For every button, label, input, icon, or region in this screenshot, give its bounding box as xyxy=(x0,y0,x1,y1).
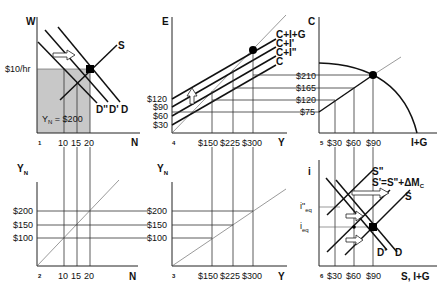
svg-text:E: E xyxy=(162,16,169,27)
svg-text:$100: $100 xyxy=(13,233,33,243)
connectors xyxy=(64,147,373,266)
supply-label: S xyxy=(118,40,125,51)
svg-text:$30: $30 xyxy=(327,138,342,148)
svg-text:$225: $225 xyxy=(220,138,240,148)
svg-text:N: N xyxy=(129,271,136,282)
svg-text:6: 6 xyxy=(320,273,324,279)
i2-label: i"eq xyxy=(300,201,312,213)
svg-text:$30: $30 xyxy=(327,271,342,281)
svg-text:$200: $200 xyxy=(13,206,33,216)
svg-text:$200: $200 xyxy=(147,206,167,216)
production-line xyxy=(37,180,119,266)
equilibrium-point xyxy=(369,71,377,79)
svg-text:15: 15 xyxy=(71,138,81,148)
y-axis-label: W xyxy=(26,16,36,27)
svg-text:$90: $90 xyxy=(366,138,381,148)
macro-diagram: W N 1 $10/hr 10 15 20 S D'' D' D YN = $2… xyxy=(0,0,447,295)
supply-s1-label: S'=S"+ΔMC xyxy=(372,177,425,189)
svg-text:i: i xyxy=(308,166,311,177)
svg-text:10: 10 xyxy=(58,271,68,281)
frontier-curve xyxy=(319,63,417,133)
consumption-line xyxy=(319,75,373,112)
svg-text:2: 2 xyxy=(38,273,42,279)
wage-label: $10/hr xyxy=(5,64,31,74)
svg-text:$150: $150 xyxy=(198,138,218,148)
svg-text:S": S" xyxy=(372,166,384,177)
equilibrium-point xyxy=(249,46,257,54)
svg-text:4: 4 xyxy=(172,140,176,146)
equilibrium-point xyxy=(86,65,94,73)
demand-label-d: D xyxy=(121,104,128,115)
svg-text:$30: $30 xyxy=(153,120,168,130)
svg-text:Y: Y xyxy=(278,271,285,282)
svg-text:C: C xyxy=(308,16,315,27)
ci2-line xyxy=(172,56,276,116)
equilibrium-point xyxy=(369,223,377,231)
demand-label-d1: D' xyxy=(109,104,119,115)
svg-text:$90: $90 xyxy=(366,271,381,281)
panel-4-keynesian-cross: E Y 4 C+I+G C+I' C+I" C $120 $90 $60 $30… xyxy=(147,15,319,148)
panel-1-labor-market: W N 1 $10/hr 10 15 20 S D'' D' D YN = $2… xyxy=(5,16,140,148)
y-axis-label: YN xyxy=(17,163,28,176)
panel-6-loanable-funds: i S, I+G 6 i"eq ieq S" S'=S"+ΔMC S D' D … xyxy=(300,160,437,282)
svg-text:$225: $225 xyxy=(220,271,240,281)
svg-text:$60: $60 xyxy=(346,271,361,281)
svg-text:$150: $150 xyxy=(198,271,218,281)
svg-text:$300: $300 xyxy=(242,138,262,148)
shift-arrow-icon xyxy=(346,235,363,245)
y-axis-label: YN xyxy=(157,163,168,176)
cig-line xyxy=(172,39,276,99)
svg-text:20: 20 xyxy=(84,271,94,281)
svg-text:5: 5 xyxy=(320,140,324,146)
demand-label-d2: D'' xyxy=(96,104,108,115)
income-line xyxy=(172,189,286,266)
svg-text:Y: Y xyxy=(278,137,285,148)
svg-text:10: 10 xyxy=(58,138,68,148)
svg-text:S: S xyxy=(405,191,412,202)
shift-arrow-icon xyxy=(352,188,389,198)
svg-text:S, I+G: S, I+G xyxy=(401,271,430,282)
supply-s xyxy=(345,190,410,255)
svg-text:3: 3 xyxy=(172,273,176,279)
panel-2-production-function: YN N 2 $200 $150 $100 10 15 20 xyxy=(13,163,148,282)
svg-text:15: 15 xyxy=(71,271,81,281)
svg-text:$100: $100 xyxy=(147,233,167,243)
panel-number: 1 xyxy=(38,140,42,146)
ci1-line xyxy=(172,47,276,107)
svg-text:$150: $150 xyxy=(147,220,167,230)
svg-text:$60: $60 xyxy=(346,138,361,148)
panel-3-income-mapping: YN Y 3 $200 $150 $100 $150 $225 $300 xyxy=(147,163,287,282)
svg-text:D': D' xyxy=(377,247,387,258)
svg-text:$300: $300 xyxy=(242,271,262,281)
svg-text:D: D xyxy=(395,247,402,258)
svg-text:C: C xyxy=(276,56,283,67)
svg-text:$150: $150 xyxy=(13,220,33,230)
x-axis-label: N xyxy=(131,137,138,148)
svg-text:$210: $210 xyxy=(296,71,316,81)
svg-text:20: 20 xyxy=(84,138,94,148)
svg-text:I+G: I+G xyxy=(411,137,428,148)
i1-label: ieq xyxy=(300,221,309,233)
